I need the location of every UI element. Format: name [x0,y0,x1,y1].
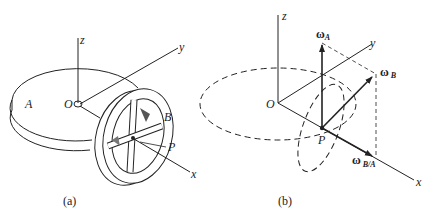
z-label-b: z [281,9,287,23]
wheel-label-b: B [164,110,172,124]
origin-label-b: O [266,97,275,111]
dashed-guide-top [322,43,376,74]
omega-b-label: ωB [380,65,397,80]
caption-a: (a) [63,194,76,208]
y-label-a: y [178,40,185,54]
wheel-b [85,81,184,193]
z-label-a: z [79,33,85,47]
x-label-a: x [190,167,197,181]
shaft-a [80,106,100,118]
point-label-b: P [317,133,326,147]
y-axis-b [278,44,372,103]
caption-b: (b) [278,194,292,208]
omega-ba-vector [322,128,372,156]
point-label-a: P [167,140,176,154]
omega-b-vector [322,77,372,128]
y-label-b: y [369,36,376,50]
origin-label-a: O [64,97,73,111]
omega-a-label: ωA [316,27,331,42]
x-label-b: x [415,175,422,189]
figure-canvas: z y x O A B P (a) z y x O P ωA [0,0,430,217]
omega-ba-label: ωB/A [352,153,376,169]
panel-b: z y x O P ωA ωB ωB/A (b) [200,9,422,208]
panel-a: z y x O A B P (a) [10,33,197,208]
point-p-marker-b [320,126,324,130]
disk-label-a: A [24,97,33,111]
